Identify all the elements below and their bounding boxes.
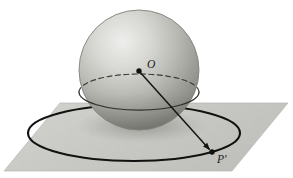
sphere-center-point	[136, 68, 141, 73]
projected-point	[209, 149, 214, 154]
geometry-figure: O P'	[0, 0, 293, 178]
figure-canvas: O P'	[0, 0, 293, 178]
center-label: O	[147, 58, 156, 70]
projected-point-label: P'	[216, 153, 227, 165]
